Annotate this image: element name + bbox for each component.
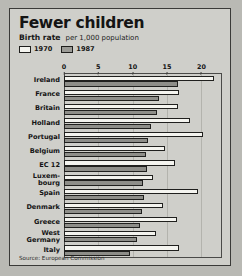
chart-legend: 1970 1987 — [19, 45, 95, 53]
category-label: Holland — [12, 120, 60, 127]
chart-row: France — [64, 88, 222, 102]
chart-row: Spain — [64, 187, 222, 201]
chart-row: Britain — [64, 102, 222, 116]
bar-1970 — [64, 217, 177, 222]
category-label: Ireland — [12, 77, 60, 84]
bar-1970 — [64, 245, 179, 250]
bar-1970 — [64, 160, 175, 165]
subtitle-units: per 1,000 population — [65, 34, 138, 42]
chart-row: EC 12 — [64, 159, 222, 173]
chart-row: Ireland — [64, 74, 222, 88]
bar-1970 — [64, 118, 190, 123]
x-tick-label: 20 — [197, 63, 206, 71]
legend-swatch-1970 — [19, 46, 31, 53]
bar-1970 — [64, 90, 179, 95]
subtitle-main: Birth rate — [19, 33, 60, 42]
chart-row: Greece — [64, 216, 222, 230]
category-label: EC 12 — [12, 162, 60, 169]
bar-1987 — [64, 166, 147, 171]
category-label: Belgium — [12, 148, 60, 155]
bar-1987 — [64, 152, 146, 157]
legend-label-1970: 1970 — [34, 45, 52, 53]
legend-swatch-1987 — [61, 46, 73, 53]
chart-bars: IrelandFranceBritainHollandPortugalBelgi… — [64, 74, 222, 258]
x-tick-label: 5 — [96, 63, 100, 71]
legend-item-1987: 1987 — [61, 45, 94, 53]
category-label: Britain — [12, 106, 60, 113]
category-label: Portugal — [12, 134, 60, 141]
category-label: Spain — [12, 191, 60, 198]
bar-1970 — [64, 189, 198, 194]
bar-1987 — [64, 180, 143, 185]
chart-row: Holland — [64, 116, 222, 130]
chart-row: Denmark — [64, 201, 222, 215]
bar-1987 — [64, 237, 137, 242]
legend-item-1970: 1970 — [19, 45, 52, 53]
chart-card: Fewer children Birth rate per 1,000 popu… — [9, 8, 231, 266]
bar-1970 — [64, 175, 153, 180]
bar-1987 — [64, 209, 142, 214]
page-title: Fewer children — [19, 14, 144, 32]
bar-1970 — [64, 203, 163, 208]
bar-1987 — [64, 110, 157, 115]
x-tick-label: 10 — [128, 63, 137, 71]
chart-row: Luxem- bourg — [64, 173, 222, 187]
bar-1987 — [64, 138, 148, 143]
category-label: Greece — [12, 219, 60, 226]
bar-1970 — [64, 104, 178, 109]
category-label: Denmark — [12, 205, 60, 212]
bar-1987 — [64, 96, 159, 101]
category-label: Luxem- bourg — [12, 173, 60, 187]
chart-source: Source: European Commission — [19, 255, 104, 261]
category-label: West Germany — [12, 230, 60, 244]
chart-plot-area: 05101520 IrelandFranceBritainHollandPort… — [64, 63, 222, 258]
subtitle: Birth rate per 1,000 population — [19, 33, 139, 42]
bar-1970 — [64, 76, 214, 81]
x-tick-label: 0 — [62, 63, 66, 71]
legend-label-1987: 1987 — [76, 45, 94, 53]
category-label: France — [12, 92, 60, 99]
bar-1987 — [64, 81, 178, 86]
bar-1970 — [64, 146, 165, 151]
bar-1987 — [64, 223, 140, 228]
chart-row: Portugal — [64, 131, 222, 145]
bar-1987 — [64, 195, 144, 200]
bar-1970 — [64, 231, 156, 236]
bar-1970 — [64, 132, 203, 137]
chart-row: West Germany — [64, 230, 222, 244]
category-label: Italy — [12, 247, 60, 254]
x-tick-label: 15 — [163, 63, 172, 71]
bar-1987 — [64, 124, 151, 129]
chart-row: Belgium — [64, 145, 222, 159]
